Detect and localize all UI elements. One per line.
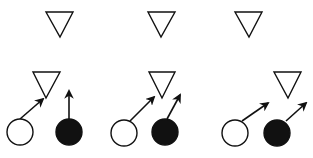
black-arrow-icon xyxy=(286,103,306,121)
white-circle-icon xyxy=(111,120,137,146)
white-arrow-icon xyxy=(242,103,268,121)
panel-2 xyxy=(111,12,180,146)
diagram-canvas xyxy=(0,0,313,158)
white-circle-icon xyxy=(222,120,248,146)
white-arrow-icon xyxy=(20,99,43,119)
top-triangle-icon xyxy=(46,12,73,37)
mid-triangle-icon xyxy=(274,72,301,98)
white-arrow-icon xyxy=(130,97,154,121)
mid-triangle-icon xyxy=(33,72,60,98)
panel-3 xyxy=(222,12,306,146)
top-triangle-icon xyxy=(235,12,262,37)
panel-1 xyxy=(7,12,82,145)
black-circle-icon xyxy=(152,119,178,145)
mid-triangle-icon xyxy=(149,72,175,98)
white-circle-icon xyxy=(7,119,33,145)
top-triangle-icon xyxy=(148,12,175,37)
black-arrow-icon xyxy=(167,95,180,119)
black-circle-icon xyxy=(56,119,82,145)
black-circle-icon xyxy=(264,120,290,146)
